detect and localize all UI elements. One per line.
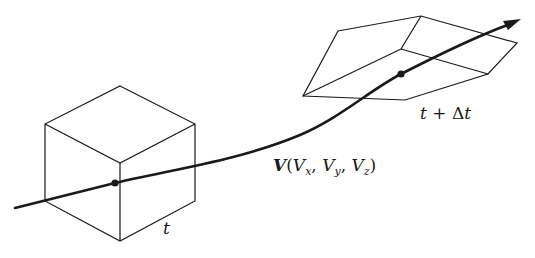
plus-delta: + Δ [427,103,464,123]
t-symbol-2: t [464,103,471,123]
time-label-t: t [163,218,170,238]
velocity-vector-symbol: V [273,155,286,175]
vx-symbol: V [293,155,305,175]
separator-1: , [311,155,322,175]
arrowhead-icon [503,19,521,30]
particle-dot-end [397,70,404,77]
cube-element [45,86,195,241]
velocity-label: V(Vx, Vy, Vz) [273,155,376,178]
deformed-element [303,16,517,100]
t-symbol: t [420,103,427,123]
paren-close: ) [370,155,377,175]
diagram-canvas [0,0,535,258]
particle-dot-start [111,179,118,186]
vz-symbol: V [351,155,363,175]
time-label-t-plus-dt: t + Δt [420,103,471,123]
vy-symbol: V [322,155,334,175]
separator-2: , [341,155,352,175]
paren-open: ( [286,155,293,175]
